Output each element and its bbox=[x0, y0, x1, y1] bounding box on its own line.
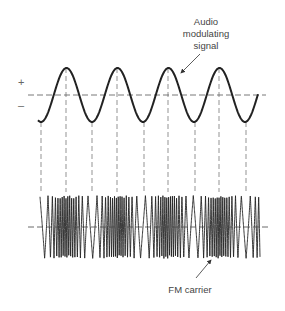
audio-label-line-1: Audio bbox=[170, 16, 242, 28]
audio-label-arrow bbox=[181, 54, 200, 73]
fm-diagram bbox=[0, 0, 285, 311]
minus-sign: – bbox=[18, 99, 24, 111]
audio-signal-label: Audio modulating signal bbox=[170, 16, 242, 52]
plus-sign: + bbox=[18, 76, 24, 88]
vertical-guide-lines bbox=[41, 68, 246, 192]
fm-carrier-label: FM carrier bbox=[158, 284, 222, 296]
carrier-label-arrow bbox=[196, 260, 211, 278]
audio-label-line-2: modulating bbox=[170, 28, 242, 40]
audio-label-line-3: signal bbox=[170, 40, 242, 52]
